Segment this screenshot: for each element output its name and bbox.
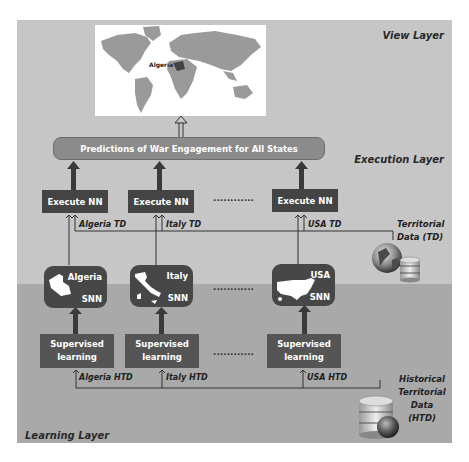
territorial-data-icon <box>370 238 430 283</box>
htd-label-italy: Italy HTD <box>166 373 208 382</box>
snn-country-label: Algeria <box>68 272 102 282</box>
execute-nn-node-usa: Execute NN <box>272 189 338 212</box>
snn-tag-label: SNN <box>310 292 330 302</box>
snn-node-algeria: Algeria SNN <box>44 266 107 308</box>
supervised-line2: learning <box>142 351 182 364</box>
globe-icon <box>372 243 402 273</box>
snn-node-italy: Italy SNN <box>130 265 193 307</box>
supervised-learning-node-usa: Supervised learning <box>267 334 341 368</box>
supervised-learning-node-italy: Supervised learning <box>125 334 199 368</box>
thick-arrow-sup-3 <box>298 305 311 335</box>
htd-label-algeria: Algeria HTD <box>79 373 133 382</box>
supervised-line1: Supervised <box>277 338 331 351</box>
supervised-learning-node-algeria: Supervised learning <box>40 334 114 368</box>
italy-outline-icon <box>133 271 163 305</box>
historical-data-icon <box>357 395 407 440</box>
td-label-italy: Italy TD <box>166 220 201 229</box>
supervised-line2: learning <box>57 351 97 364</box>
td-label-algeria: Algeria TD <box>79 220 126 229</box>
thick-arrow-sup-1 <box>69 307 82 335</box>
double-arrow-to-map <box>175 116 187 137</box>
htd-label-usa: USA HTD <box>307 373 347 382</box>
supervised-line1: Supervised <box>50 338 104 351</box>
snn-ellipsis: ............ <box>213 282 254 292</box>
execute-nn-node-algeria: Execute NN <box>42 190 108 213</box>
globe-icon <box>377 416 399 438</box>
snn-country-label: USA <box>310 270 330 280</box>
snn-tag-label: SNN <box>82 294 102 304</box>
database-icon <box>400 257 420 283</box>
snn-country-label: Italy <box>167 271 188 281</box>
supervised-line1: Supervised <box>135 338 189 351</box>
historical-data-line1: Historical <box>397 373 447 386</box>
thick-arrow-exec-2 <box>153 161 166 190</box>
thick-arrow-exec-1 <box>67 161 80 190</box>
snn-node-usa: USA SNN <box>272 264 335 306</box>
supervised-ellipsis: ............ <box>213 347 254 357</box>
predictions-node: Predictions of War Engagement for All St… <box>53 137 325 160</box>
thick-arrow-sup-2 <box>155 307 168 335</box>
snn-tag-label: SNN <box>168 293 188 303</box>
supervised-line2: learning <box>284 351 324 364</box>
execute-ellipsis: ............ <box>213 193 254 203</box>
territorial-data-line1: Territorial <box>397 218 444 231</box>
td-label-usa: USA TD <box>308 220 341 229</box>
td-bus-line <box>75 231 393 240</box>
thick-arrow-exec-3 <box>295 161 308 190</box>
architecture-diagram: View Layer Execution Layer Learning Laye… <box>17 20 452 443</box>
execute-nn-node-italy: Execute NN <box>128 190 194 213</box>
